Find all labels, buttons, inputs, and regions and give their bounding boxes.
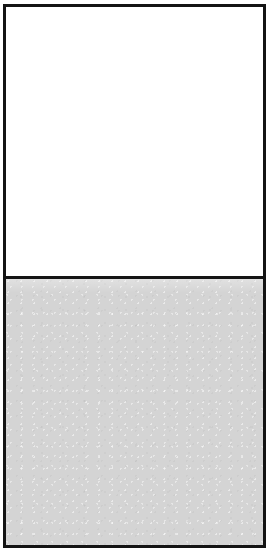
upper-pane <box>6 7 263 276</box>
bordered-rectangle <box>3 4 266 548</box>
lower-pane <box>6 279 263 545</box>
upper-pane-content <box>6 7 263 276</box>
lower-pane-content <box>6 279 263 545</box>
figure-canvas <box>0 0 278 555</box>
